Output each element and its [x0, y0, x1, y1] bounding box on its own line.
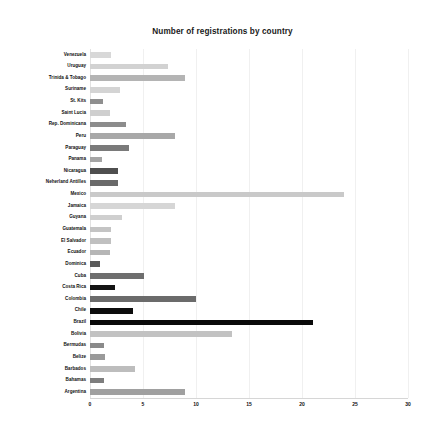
category-label: Jamaica — [68, 200, 86, 212]
bar[interactable] — [90, 250, 110, 256]
bar[interactable] — [90, 366, 135, 372]
category-label: Mexico — [70, 188, 86, 200]
bar-row[interactable]: Brazil — [90, 317, 408, 329]
category-label: Neherland Antilles — [46, 176, 86, 188]
bar-row[interactable]: Neherland Antilles — [90, 177, 408, 189]
bar-row[interactable]: Ecuador — [90, 247, 408, 259]
bar[interactable] — [90, 157, 102, 163]
category-label: El Salvador — [61, 235, 86, 247]
bar-row[interactable]: Chile — [90, 305, 408, 317]
chart-title: Number of registrations by country — [0, 27, 445, 36]
bar-row[interactable]: St. Kits — [90, 96, 408, 108]
bar-row[interactable]: Peru — [90, 130, 408, 142]
bar-row[interactable]: Bolivia — [90, 328, 408, 340]
category-label: Guyana — [69, 211, 86, 223]
bar[interactable] — [90, 52, 111, 58]
category-label: Paraguay — [65, 142, 86, 154]
category-label: Suriname — [65, 83, 86, 95]
category-label: Guatemala — [63, 223, 87, 235]
bar[interactable] — [90, 168, 118, 174]
category-label: Nicaragua — [64, 165, 86, 177]
bar[interactable] — [90, 227, 111, 233]
bar-row[interactable]: Colombia — [90, 293, 408, 305]
x-tick-label: 5 — [142, 401, 145, 407]
bar-row[interactable]: Guatemala — [90, 224, 408, 236]
category-label: Bahamas — [66, 374, 86, 386]
bar[interactable] — [90, 238, 111, 244]
x-tick-label: 20 — [299, 401, 305, 407]
bar-row[interactable]: Dominica — [90, 258, 408, 270]
bar[interactable] — [90, 354, 105, 360]
bar-row[interactable]: Rep. Dominicana — [90, 119, 408, 131]
bar-row[interactable]: Bermudas — [90, 340, 408, 352]
category-label: Venezuela — [64, 49, 86, 61]
category-label: Uruguay — [67, 60, 86, 72]
bar[interactable] — [90, 203, 175, 209]
bar-row[interactable]: Argentina — [90, 386, 408, 398]
plot-area: VenezuelaUruguayTrinida & TobagoSuriname… — [90, 49, 408, 398]
category-label: Saint Lucia — [61, 107, 86, 119]
category-label: Costa Rica — [62, 281, 86, 293]
category-label: Barbados — [65, 363, 86, 375]
bar[interactable] — [90, 296, 196, 302]
bar[interactable] — [90, 308, 133, 314]
category-label: Bolivia — [71, 328, 86, 340]
x-tick-label: 10 — [193, 401, 199, 407]
bar[interactable] — [90, 99, 103, 105]
bar[interactable] — [90, 285, 115, 291]
x-tick-label: 15 — [246, 401, 252, 407]
category-label: St. Kits — [70, 95, 86, 107]
bar-row[interactable]: Nicaragua — [90, 165, 408, 177]
bar[interactable] — [90, 145, 129, 151]
category-label: Ecuador — [68, 246, 86, 258]
bar-row[interactable]: Costa Rica — [90, 282, 408, 294]
bar[interactable] — [90, 75, 185, 81]
bar[interactable] — [90, 273, 144, 279]
gridline-30 — [408, 49, 409, 398]
bar-row[interactable]: Mexico — [90, 189, 408, 201]
bar[interactable] — [90, 122, 126, 128]
category-label: Belize — [73, 351, 86, 363]
category-label: Bermudas — [64, 339, 86, 351]
bar[interactable] — [90, 180, 118, 186]
bar-series: VenezuelaUruguayTrinida & TobagoSuriname… — [90, 49, 408, 398]
x-axis-line — [90, 398, 408, 399]
bar-row[interactable]: Venezuela — [90, 49, 408, 61]
bar[interactable] — [90, 389, 185, 395]
bar-row[interactable]: Saint Lucia — [90, 107, 408, 119]
category-label: Argentina — [65, 386, 86, 398]
bar-row[interactable]: Jamaica — [90, 200, 408, 212]
bar-chart: Number of registrations by country Venez… — [0, 0, 445, 445]
category-label: Peru — [76, 130, 86, 142]
bar[interactable] — [90, 215, 122, 221]
bar-row[interactable]: Suriname — [90, 84, 408, 96]
bar[interactable] — [90, 331, 232, 337]
x-tick-label: 30 — [405, 401, 411, 407]
bar[interactable] — [90, 133, 175, 139]
bar-row[interactable]: Uruguay — [90, 61, 408, 73]
bar[interactable] — [90, 320, 313, 326]
bar-row[interactable]: Belize — [90, 351, 408, 363]
bar-row[interactable]: Guyana — [90, 212, 408, 224]
category-label: Panama — [68, 153, 86, 165]
bar-row[interactable]: Paraguay — [90, 142, 408, 154]
bar[interactable] — [90, 192, 344, 198]
category-label: Dominica — [65, 258, 86, 270]
bar[interactable] — [90, 343, 104, 349]
bar-row[interactable]: Cuba — [90, 270, 408, 282]
bar-row[interactable]: El Salvador — [90, 235, 408, 247]
x-tick-label: 25 — [352, 401, 358, 407]
bar[interactable] — [90, 64, 168, 70]
bar-row[interactable]: Trinida & Tobago — [90, 72, 408, 84]
bar[interactable] — [90, 261, 100, 267]
category-label: Colombia — [65, 293, 86, 305]
category-label: Cuba — [75, 270, 86, 282]
category-label: Chile — [75, 304, 86, 316]
bar-row[interactable]: Panama — [90, 154, 408, 166]
x-tick-label: 0 — [89, 401, 92, 407]
bar[interactable] — [90, 110, 110, 116]
bar-row[interactable]: Barbados — [90, 363, 408, 375]
bar[interactable] — [90, 378, 104, 384]
bar-row[interactable]: Bahamas — [90, 375, 408, 387]
bar[interactable] — [90, 87, 120, 93]
